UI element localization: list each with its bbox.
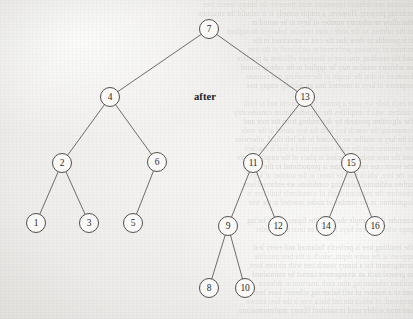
tree-edges xyxy=(40,34,372,279)
tree-node-10: 10 xyxy=(236,279,255,298)
tree-node-14: 14 xyxy=(317,217,336,236)
tree-edge-4-6 xyxy=(116,105,152,155)
node-label-14: 14 xyxy=(321,221,331,231)
tree-node-15: 15 xyxy=(342,154,361,173)
node-label-11: 11 xyxy=(249,158,258,168)
tree-edge-2-1 xyxy=(40,172,58,215)
tree-node-6: 6 xyxy=(148,153,167,172)
node-label-2: 2 xyxy=(60,158,65,168)
node-label-5: 5 xyxy=(131,218,136,228)
node-label-10: 10 xyxy=(240,283,250,293)
tree-node-5: 5 xyxy=(124,214,143,233)
node-label-4: 4 xyxy=(108,92,113,102)
tree-edge-9-10 xyxy=(231,235,243,279)
node-label-8: 8 xyxy=(207,283,212,293)
tree-node-7: 7 xyxy=(200,20,219,39)
node-label-9: 9 xyxy=(226,221,231,231)
tree-edge-4-2 xyxy=(68,105,105,156)
tree-node-4: 4 xyxy=(101,88,120,107)
tree-edge-13-15 xyxy=(310,105,345,155)
node-label-6: 6 xyxy=(155,157,160,167)
tree-node-13: 13 xyxy=(296,88,315,107)
scanned-page: insertion and deletion operations must p… xyxy=(0,0,413,319)
tree-edge-7-4 xyxy=(118,34,201,91)
tree-edge-11-9 xyxy=(232,172,250,217)
tree-edge-13-11 xyxy=(259,104,299,155)
tree-node-9: 9 xyxy=(219,217,238,236)
tree-node-1: 1 xyxy=(27,214,46,233)
tree-edge-9-8 xyxy=(212,235,225,279)
tree-nodes: 74132611151359121416810 xyxy=(27,20,385,298)
node-label-13: 13 xyxy=(300,92,310,102)
tree-node-16: 16 xyxy=(366,217,385,236)
node-label-1: 1 xyxy=(34,218,39,228)
tree-node-12: 12 xyxy=(269,217,288,236)
node-label-7: 7 xyxy=(207,24,212,34)
tree-edge-11-12 xyxy=(257,172,275,217)
node-label-15: 15 xyxy=(346,158,356,168)
tree-edge-15-14 xyxy=(330,172,348,217)
binary-tree-figure: 74132611151359121416810 xyxy=(0,0,413,319)
tree-node-3: 3 xyxy=(80,214,99,233)
tree-edge-7-13 xyxy=(217,34,298,91)
tree-edge-15-16 xyxy=(354,172,371,217)
node-label-16: 16 xyxy=(370,221,380,231)
tree-node-8: 8 xyxy=(200,279,219,298)
tree-node-11: 11 xyxy=(244,154,263,173)
tree-edge-2-3 xyxy=(66,172,85,215)
node-label-12: 12 xyxy=(273,221,283,231)
node-label-3: 3 xyxy=(87,218,92,228)
figure-caption-after: after xyxy=(194,91,216,102)
tree-node-2: 2 xyxy=(53,154,72,173)
tree-edge-6-5 xyxy=(136,171,153,214)
